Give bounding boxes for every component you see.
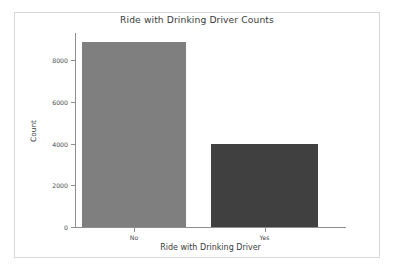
x-tick-mark	[134, 228, 135, 232]
x-tick-mark	[265, 228, 266, 232]
x-tick-label: Yes	[260, 234, 270, 241]
bars-layer	[75, 33, 346, 227]
bar-no[interactable]	[82, 42, 186, 227]
y-tick-mark	[71, 60, 75, 61]
y-tick-mark	[71, 185, 75, 186]
x-tick-label: No	[130, 234, 138, 241]
y-tick-mark	[71, 102, 75, 103]
chart-title: Ride with Drinking Driver Counts	[0, 14, 394, 25]
x-axis-spine	[75, 227, 346, 228]
y-tick-label: 0	[64, 224, 68, 231]
bar-yes[interactable]	[211, 144, 318, 227]
x-axis-label: Ride with Drinking Driver	[75, 243, 346, 252]
y-tick-label: 4000	[52, 140, 68, 147]
y-tick-label: 2000	[52, 182, 68, 189]
y-tick-mark	[71, 227, 75, 228]
y-axis-label: Count	[29, 120, 38, 142]
y-tick-label: 6000	[52, 98, 68, 105]
y-tick-label: 8000	[52, 57, 68, 64]
y-tick-mark	[71, 144, 75, 145]
